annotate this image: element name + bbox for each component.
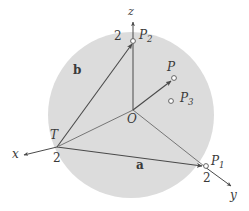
point-label-P3: P3 — [180, 92, 194, 107]
point-marker-P3 — [169, 99, 174, 104]
point-label-P1-subscript: 1 — [219, 160, 225, 170]
figure-graphics — [0, 0, 249, 211]
figure-canvas: z 2 P2 b P P3 O T x 2 a P1 2 y — [0, 0, 249, 211]
y-axis-label: y — [230, 189, 237, 201]
point-label-P3-base: P — [180, 91, 188, 105]
origin-label: O — [127, 113, 137, 125]
point-label-P2: P2 — [139, 29, 153, 44]
x-axis-label: x — [12, 148, 19, 160]
z-axis-label: z — [128, 6, 134, 17]
point-marker-P — [172, 76, 177, 81]
x-tick-label-2: 2 — [53, 152, 61, 164]
point-marker-P2 — [131, 39, 136, 44]
vector-b-label: b — [73, 64, 81, 76]
point-label-P1-base: P — [211, 154, 219, 168]
point-label-P1: P1 — [211, 155, 225, 170]
y-tick-label-2: 2 — [203, 172, 211, 184]
point-marker-P1 — [204, 164, 209, 169]
vector-a-label: a — [136, 159, 144, 171]
point-label-P2-subscript: 2 — [147, 34, 153, 44]
z-tick-label-2: 2 — [114, 30, 122, 42]
point-label-P2-base: P — [139, 28, 147, 42]
point-label-T: T — [50, 129, 58, 141]
point-label-P3-subscript: 3 — [188, 97, 194, 107]
point-label-P: P — [167, 61, 175, 73]
